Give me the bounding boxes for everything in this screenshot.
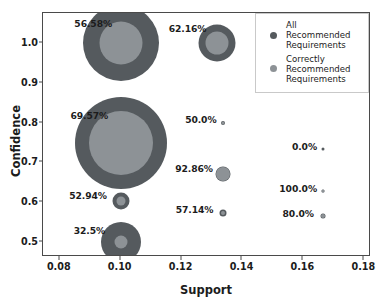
x-tick-mark (119, 256, 120, 260)
data-point-label: 80.0% (283, 207, 314, 218)
bubble-chart-figure: Confidence 0.50.60.70.80.91.0 0.080.100.… (0, 0, 389, 303)
bubble-all-recommended (322, 147, 325, 150)
y-tick-label: 0.9 (21, 77, 38, 88)
x-tick-mark (363, 256, 364, 260)
data-point-label: 57.14% (176, 203, 214, 214)
bubble-correctly-recommended (221, 211, 225, 215)
x-tick-label: 0.16 (291, 261, 315, 272)
legend-item-all-recommended: All Recommended Requirements (260, 20, 364, 51)
y-tick-label: 0.6 (21, 196, 38, 207)
data-point-label: 0.0% (292, 141, 317, 152)
legend-label-line-1: Correctly (286, 54, 325, 64)
legend-marker-all-recommended-icon (260, 32, 286, 39)
x-tick-mark (180, 256, 181, 260)
y-tick-label: 1.0 (21, 37, 38, 48)
x-axis-label: Support (42, 283, 370, 297)
legend-label-line-1: All (286, 20, 297, 30)
legend-label-line-2: Recommended (286, 30, 351, 40)
legend-label-line-2: Recommended (286, 64, 351, 74)
data-point-label: 69.57% (70, 109, 108, 120)
bubble-correctly-recommended (205, 32, 228, 55)
y-tick-label: 0.7 (21, 156, 38, 167)
data-point-label: 100.0% (279, 183, 317, 194)
bubble-correctly-recommended (321, 214, 325, 218)
bubble-correctly-recommended (89, 111, 153, 175)
data-point-label: 62.16% (169, 23, 207, 34)
x-tick-label: 0.08 (47, 261, 71, 272)
bubble-correctly-recommended (322, 190, 325, 193)
data-point-label: 32.5% (74, 224, 105, 235)
legend-label-correctly-recommended: Correctly Recommended Requirements (286, 54, 351, 85)
bubble-correctly-recommended (216, 167, 230, 181)
legend-label-line-3: Requirements (286, 40, 346, 50)
y-axis-label: Confidence (9, 91, 23, 191)
y-tick-label: 0.5 (21, 235, 38, 246)
x-tick-mark (241, 256, 242, 260)
data-point-label: 92.86% (175, 162, 213, 173)
data-point-label: 56.58% (74, 17, 112, 28)
x-tick-label: 0.10 (108, 261, 132, 272)
y-tick-label: 0.8 (21, 116, 38, 127)
x-tick-mark (58, 256, 59, 260)
bubble-correctly-recommended (114, 235, 127, 248)
x-tick-label: 0.14 (230, 261, 254, 272)
x-tick-label: 0.18 (351, 261, 375, 272)
data-point-label: 50.0% (185, 114, 216, 125)
bubble-correctly-recommended (221, 121, 224, 124)
x-tick-mark (302, 256, 303, 260)
legend-item-correctly-recommended: Correctly Recommended Requirements (260, 54, 364, 85)
bubble-correctly-recommended (116, 197, 125, 206)
legend-marker-correctly-recommended-icon (260, 65, 286, 72)
x-tick-label: 0.12 (169, 261, 193, 272)
legend-label-all-recommended: All Recommended Requirements (286, 20, 351, 51)
data-point-label: 52.94% (69, 190, 107, 201)
legend-label-line-3: Requirements (286, 74, 346, 84)
chart-legend: All Recommended Requirements Correctly R… (255, 13, 369, 93)
